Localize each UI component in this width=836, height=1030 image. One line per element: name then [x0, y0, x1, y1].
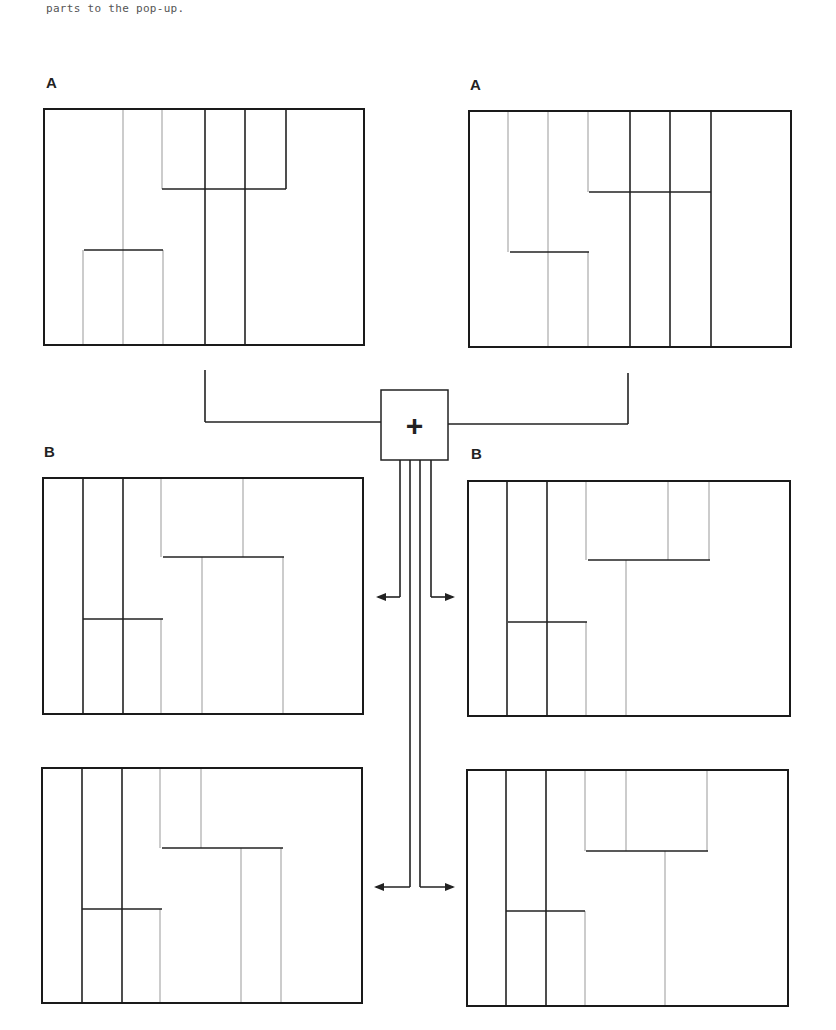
panel-b-left	[43, 478, 363, 714]
panel-c-right	[467, 770, 788, 1006]
panel-b-right	[468, 481, 790, 716]
panel-frame	[44, 109, 364, 345]
diagram-canvas: +	[0, 0, 836, 1030]
panel-a-left	[44, 109, 364, 345]
plus-box: +	[381, 390, 448, 460]
panels-layer	[42, 109, 791, 1006]
panel-a-right	[469, 111, 791, 347]
panel-c-left	[42, 768, 362, 1003]
panel-frame	[42, 768, 362, 1003]
panel-frame	[467, 770, 788, 1006]
plus-icon: +	[406, 409, 424, 442]
panel-frame	[468, 481, 790, 716]
panel-frame	[43, 478, 363, 714]
